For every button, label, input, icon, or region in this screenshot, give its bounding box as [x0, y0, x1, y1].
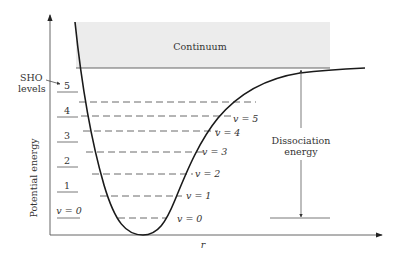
morse-level-3: v = 3 [202, 146, 227, 157]
sho-level-5: 5 [64, 80, 70, 91]
morse-level-2: v = 2 [195, 168, 220, 179]
morse-level-5: v = 5 [233, 113, 258, 124]
x-axis-label: r [201, 239, 207, 250]
sho-level-1: 1 [64, 180, 70, 191]
y-axis-label: Potential energy [28, 138, 39, 218]
continuum-label: Continuum [173, 41, 226, 52]
morse-level-0: v = 0 [177, 213, 202, 224]
sho-level-2: 2 [64, 155, 70, 166]
sho-level-4: 4 [64, 105, 70, 116]
dissociation-label-line1: Dissociation [272, 135, 331, 146]
morse-levels [79, 102, 256, 218]
morse-level-4: v = 4 [215, 127, 240, 138]
sho-level-0: v = 0 [56, 205, 81, 216]
morse-potential-diagram: Continuum Potential energy r SHO levels … [0, 0, 401, 256]
morse-level-1: v = 1 [186, 190, 211, 201]
sho-pointer-arrow [46, 80, 60, 84]
sho-label-line1: SHO [20, 72, 43, 83]
sho-level-3: 3 [64, 130, 70, 141]
sho-label-line2: levels [18, 83, 46, 94]
dissociation-label-line2: energy [284, 146, 318, 157]
